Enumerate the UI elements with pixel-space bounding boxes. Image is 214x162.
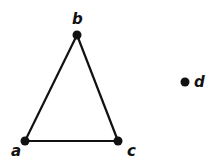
node-d xyxy=(181,78,190,87)
edges-group xyxy=(25,35,118,141)
node-label-d: d xyxy=(194,73,205,91)
node-a xyxy=(21,137,30,146)
labels-group: abcd xyxy=(11,10,205,160)
node-c xyxy=(114,137,123,146)
edge-a-b xyxy=(25,35,77,141)
edge-b-c xyxy=(77,35,118,141)
node-b xyxy=(73,31,82,40)
node-label-a: a xyxy=(11,142,21,160)
nodes-group xyxy=(21,31,190,146)
graph-svg: abcd xyxy=(0,0,214,162)
node-label-c: c xyxy=(127,142,136,160)
node-label-b: b xyxy=(72,10,83,28)
graph-diagram: abcd xyxy=(0,0,214,162)
